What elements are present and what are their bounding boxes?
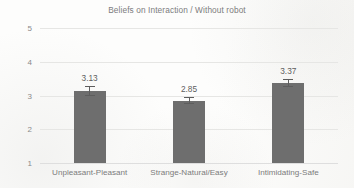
error-bar-cap-top — [283, 79, 293, 80]
error-bar-cap-top — [85, 86, 95, 87]
gridline-1 — [40, 163, 338, 164]
y-tick-label-4: 4 — [0, 57, 32, 66]
bar-chart: Beliefs on Interaction / Without robot 3… — [0, 0, 354, 188]
category-label-2: Intimidating-Safe — [258, 168, 319, 177]
y-tick-label-2: 2 — [0, 125, 32, 134]
plot-area: 3.132.853.37 — [40, 28, 338, 163]
value-label-0: 3.13 — [82, 73, 98, 83]
error-bar-cap-bottom — [184, 103, 194, 104]
bar-0 — [74, 91, 106, 163]
category-label-0: Unpleasant-Pleasant — [52, 168, 127, 177]
chart-title: Beliefs on Interaction / Without robot — [0, 5, 354, 15]
error-bar-cap-top — [184, 97, 194, 98]
category-label-1: Strange-Natural/Easy — [150, 168, 227, 177]
error-bar-cap-bottom — [283, 86, 293, 87]
value-label-1: 2.85 — [181, 84, 197, 94]
value-label-2: 3.37 — [280, 66, 296, 76]
gridline-5 — [40, 28, 338, 29]
error-bar-cap-bottom — [85, 95, 95, 96]
y-tick-label-3: 3 — [0, 91, 32, 100]
gridline-4 — [40, 62, 338, 63]
bar-2 — [272, 83, 304, 163]
bar-1 — [173, 101, 205, 163]
y-tick-label-5: 5 — [0, 24, 32, 33]
y-tick-label-1: 1 — [0, 159, 32, 168]
